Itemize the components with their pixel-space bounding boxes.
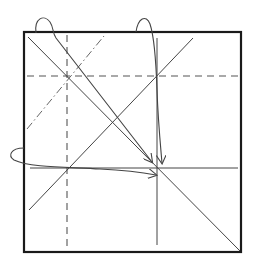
main-diagonal-crease [28, 37, 240, 251]
arrow-top-edge [136, 18, 162, 163]
arrow-left-edge [11, 148, 156, 175]
arrow-top-left-corner [36, 18, 152, 162]
origami-diagram [0, 0, 259, 268]
anti-diagonal-crease [29, 38, 193, 210]
